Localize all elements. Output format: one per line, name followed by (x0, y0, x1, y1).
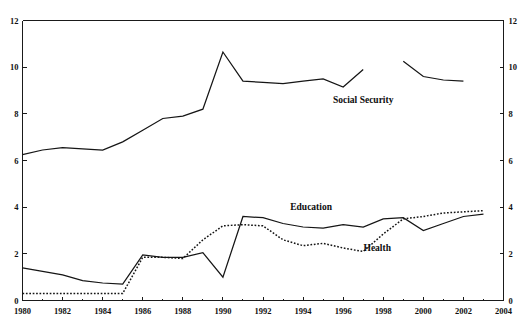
series-annotation-education: Education (290, 202, 332, 212)
y-axis-tick-label-left: 6 (0, 156, 19, 166)
y-axis-tick-label-right: 4 (509, 202, 513, 212)
x-axis-tick-label: 1998 (365, 306, 401, 316)
chart-series (23, 52, 484, 294)
x-axis-tick-label: 1994 (285, 306, 321, 316)
series-annotation-social-security: Social Security (333, 95, 393, 105)
x-axis-tick-label: 1990 (205, 306, 241, 316)
y-axis-tick-label-right: 2 (509, 249, 513, 259)
y-axis-tick-label-left: 4 (0, 202, 19, 212)
chart-container: 0246810120246810121980198219841986198819… (0, 0, 529, 331)
y-axis-tick-label-left: 10 (0, 62, 19, 72)
x-axis-tick-label: 1982 (45, 306, 81, 316)
x-axis-tick-label: 1996 (325, 306, 361, 316)
series-line-education (23, 214, 484, 284)
x-axis-tick-label: 2004 (486, 306, 522, 316)
x-axis-tick-label: 1986 (125, 306, 161, 316)
chart-axes (23, 21, 504, 301)
y-axis-tick-label-right: 0 (509, 296, 513, 306)
series-line-health (23, 211, 484, 294)
x-axis-tick-label: 1980 (5, 306, 41, 316)
y-axis-tick-label-left: 12 (0, 16, 19, 26)
x-axis-tick-label: 1984 (85, 306, 121, 316)
series-annotation-health: Health (364, 243, 391, 253)
line-chart-plot (0, 0, 529, 331)
y-axis-tick-label-left: 0 (0, 296, 19, 306)
y-axis-tick-label-right: 8 (509, 109, 513, 119)
series-line-social-security-segment-2 (403, 61, 463, 81)
x-axis-tick-label: 1988 (165, 306, 201, 316)
y-axis-tick-label-right: 10 (509, 62, 518, 72)
x-axis-tick-label: 1992 (245, 306, 281, 316)
y-axis-tick-label-left: 8 (0, 109, 19, 119)
plot-frame (23, 21, 504, 301)
y-axis-tick-label-right: 6 (509, 156, 513, 166)
series-line-social-security (23, 52, 364, 155)
x-axis-tick-label: 2000 (405, 306, 441, 316)
x-axis-tick-label: 2002 (445, 306, 481, 316)
y-axis-tick-label-right: 12 (509, 16, 518, 26)
y-axis-tick-label-left: 2 (0, 249, 19, 259)
